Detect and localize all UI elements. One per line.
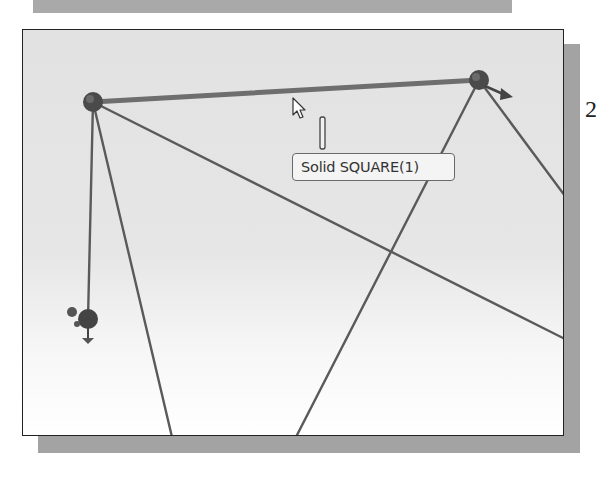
sketch-point-bottom-left[interactable] (67, 307, 98, 329)
sketch-canvas[interactable] (23, 30, 564, 436)
sketch-line-from-right-point-edge[interactable] (479, 80, 564, 196)
selection-tooltip: Solid SQUARE(1) (292, 153, 455, 181)
sketch-line-diagonal-right[interactable] (93, 102, 564, 339)
sketch-line-highlighted-top[interactable] (93, 80, 479, 102)
top-shadow-bar (33, 0, 512, 13)
sketch-point-top-left[interactable] (83, 92, 103, 112)
sketch-line-vertical-left[interactable] (88, 102, 93, 319)
sketch-viewport[interactable]: Solid SQUARE(1) (22, 29, 564, 436)
mouse-cursor-icon (293, 98, 305, 118)
step-number-label: 2 (585, 96, 597, 123)
sketch-line-steep-left[interactable] (93, 102, 172, 436)
small-arrow-icon (82, 328, 94, 344)
line-tool-indicator-icon (320, 117, 325, 149)
